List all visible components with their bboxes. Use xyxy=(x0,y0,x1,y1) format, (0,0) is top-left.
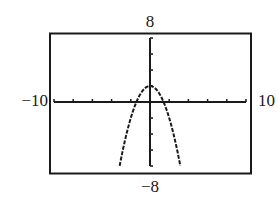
axes xyxy=(54,38,246,166)
plot-area xyxy=(0,0,278,198)
